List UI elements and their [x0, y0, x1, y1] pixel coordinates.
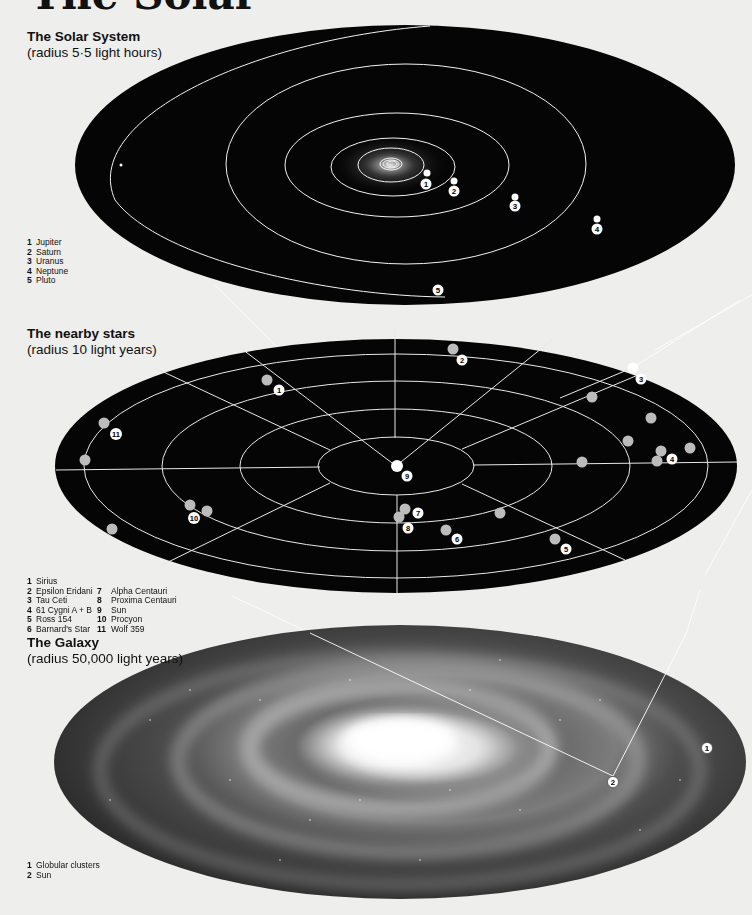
svg-text:1: 1 [705, 744, 710, 753]
marker-jupiter: 1 [421, 179, 432, 190]
marker-sun-nearby: 9 [402, 471, 413, 482]
svg-text:2: 2 [611, 778, 616, 787]
svg-text:8: 8 [406, 524, 410, 533]
nearby-stars-subtitle: (radius 10 light years) [27, 342, 157, 358]
marker-globular-clusters: 1 [702, 743, 713, 754]
marker-neptune: 4 [592, 224, 603, 235]
legend-item: 5Pluto [27, 276, 68, 286]
legend-item: 2Sun [27, 871, 100, 881]
nearby-stars-diagram [55, 328, 737, 593]
svg-text:2: 2 [460, 356, 464, 365]
marker-barnards-star: 6 [452, 534, 463, 545]
svg-text:3: 3 [639, 375, 643, 384]
svg-text:7: 7 [416, 509, 420, 518]
diagram-canvas: 1 2 3 4 5 [0, 0, 752, 915]
svg-text:4: 4 [595, 225, 600, 234]
nearby-stars-legend: 1Sirius 2Epsilon Eridani 7Alpha Centauri… [27, 577, 177, 635]
marker-proxima-centauri: 8 [403, 523, 414, 534]
svg-text:3: 3 [513, 202, 518, 211]
svg-text:1: 1 [277, 386, 281, 395]
svg-text:9: 9 [405, 472, 409, 481]
marker-sun-galaxy: 2 [608, 777, 619, 788]
galaxy-subtitle: (radius 50,000 light years) [27, 651, 183, 667]
solar-system-diagram [75, 25, 735, 305]
solar-system-heading: The Solar System (radius 5·5 light hours… [27, 29, 162, 61]
svg-text:5: 5 [564, 545, 568, 554]
solar-system-title: The Solar System [27, 29, 162, 45]
svg-text:11: 11 [112, 430, 120, 439]
nearby-stars-title: The nearby stars [27, 326, 157, 342]
nearby-stars-heading: The nearby stars (radius 10 light years) [27, 326, 157, 358]
marker-tau-ceti: 3 [636, 374, 647, 385]
marker-procyon: 10 [188, 512, 200, 524]
marker-alpha-centauri: 7 [413, 508, 424, 519]
galaxy-title: The Galaxy [27, 635, 183, 651]
marker-saturn: 2 [449, 186, 460, 197]
galaxy-legend: 1Globular clusters 2Sun [27, 861, 100, 880]
svg-text:5: 5 [436, 286, 441, 295]
galaxy-heading: The Galaxy (radius 50,000 light years) [27, 635, 183, 667]
marker-uranus: 3 [510, 201, 521, 212]
solar-system-legend: 1Jupiter 2Saturn 3Uranus 4Neptune 5Pluto [27, 238, 68, 286]
svg-text:6: 6 [455, 535, 459, 544]
marker-ross-154: 5 [561, 544, 572, 555]
svg-text:2: 2 [452, 187, 457, 196]
marker-wolf-359: 11 [110, 428, 122, 440]
svg-text:1: 1 [424, 180, 429, 189]
svg-text:10: 10 [190, 514, 198, 523]
marker-sirius: 1 [274, 385, 285, 396]
marker-61-cygni: 4 [667, 454, 678, 465]
marker-pluto: 5 [433, 285, 444, 296]
solar-system-subtitle: (radius 5·5 light hours) [27, 45, 162, 61]
marker-epsilon-eridani: 2 [457, 355, 468, 366]
